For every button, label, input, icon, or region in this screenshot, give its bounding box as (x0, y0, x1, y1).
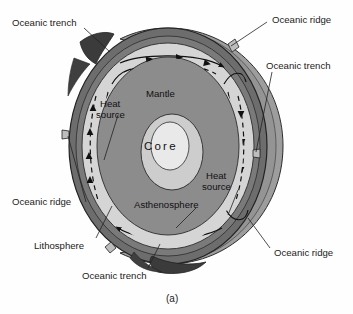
heat-source-label-upper-line1: Heat (100, 98, 120, 109)
heat-source-label-upper-line2: source (96, 109, 125, 120)
earth-convection-figure: Oceanic trench Oceanic ridge Oceanic tre… (0, 0, 353, 314)
asthenosphere-label: Asthenosphere (134, 199, 199, 210)
heat-source-label-lower-line1: Heat (206, 170, 226, 181)
callout-label-oceanic-trench-top-left: Oceanic trench (12, 17, 77, 28)
figure-caption: (a) (166, 293, 178, 304)
leader-oceanic-ridge-bottom-right (248, 218, 270, 248)
callout-label-oceanic-ridge-top-right: Oceanic ridge (272, 14, 331, 25)
leader-oceanic-ridge-top-right (231, 22, 267, 46)
heat-source-label-lower-line2: source (202, 181, 231, 192)
core-label: Core (144, 140, 178, 152)
mantle-label: Mantle (146, 88, 175, 99)
callout-label-lithosphere-left: Lithosphere (34, 240, 84, 251)
callout-label-oceanic-ridge-left: Oceanic ridge (12, 196, 71, 207)
callout-label-oceanic-trench-right: Oceanic trench (266, 60, 331, 71)
ridge-notch-left (62, 130, 69, 139)
callout-label-oceanic-trench-bottom: Oceanic trench (82, 270, 147, 281)
callout-label-oceanic-ridge-bottom-right: Oceanic ridge (274, 247, 333, 258)
earth-cutaway-illustration (0, 0, 353, 314)
